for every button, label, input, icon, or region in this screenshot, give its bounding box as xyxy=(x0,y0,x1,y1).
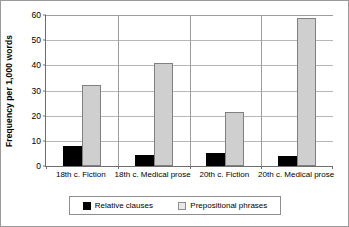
x-tick-mark xyxy=(261,166,262,169)
x-tick-mark xyxy=(190,166,191,169)
x-tick-label: 18th c. Fiction xyxy=(56,170,106,179)
legend-item-prepositional-phrases: Prepositional phrases xyxy=(178,201,267,210)
y-tick-mark xyxy=(43,65,46,66)
y-tick-mark xyxy=(43,115,46,116)
x-tick-label: 20th c. Fiction xyxy=(199,170,249,179)
plot-area xyxy=(45,15,333,167)
x-tick-mark xyxy=(118,166,119,169)
y-tick-label: 60 xyxy=(23,10,41,20)
y-tick-label: 40 xyxy=(23,60,41,70)
y-tick-label: 10 xyxy=(23,136,41,146)
x-tick-mark xyxy=(332,166,333,169)
x-tick-label: 20th c. Medical prose xyxy=(258,170,334,179)
bar xyxy=(206,153,225,166)
y-tick-mark xyxy=(43,140,46,141)
bar-chart-figure: Frequency per 1,000 words 0102030405060 … xyxy=(0,0,349,227)
bar xyxy=(154,63,173,166)
x-tick-mark xyxy=(46,166,47,169)
legend-swatch-icon-prepositional-phrases xyxy=(178,202,186,210)
bar xyxy=(82,85,101,166)
legend-label-relative-clauses: Relative clauses xyxy=(95,201,153,210)
bar xyxy=(225,112,244,166)
bar xyxy=(297,18,316,166)
category-separator xyxy=(261,15,262,166)
y-tick-label: 30 xyxy=(23,86,41,96)
y-tick-label: 20 xyxy=(23,111,41,121)
category-separator xyxy=(118,15,119,166)
x-tick-label: 18th c. Medical prose xyxy=(115,170,191,179)
bar xyxy=(63,146,82,166)
chart-legend: Relative clauses Prepositional phrases xyxy=(69,196,281,215)
y-tick-label: 50 xyxy=(23,35,41,45)
bar xyxy=(135,155,154,166)
y-axis-title: Frequency per 1,000 words xyxy=(4,35,14,147)
x-axis-tick-labels: 18th c. Fiction18th c. Medical prose20th… xyxy=(45,170,333,184)
y-tick-mark xyxy=(43,40,46,41)
y-tick-label: 0 xyxy=(23,161,41,171)
y-tick-mark xyxy=(43,15,46,16)
legend-swatch-icon-relative-clauses xyxy=(83,202,91,210)
y-axis-title-container: Frequency per 1,000 words xyxy=(1,1,17,181)
y-tick-mark xyxy=(43,90,46,91)
bar xyxy=(278,156,297,166)
y-axis-tick-labels: 0102030405060 xyxy=(21,1,41,227)
legend-item-relative-clauses: Relative clauses xyxy=(83,201,153,210)
legend-label-prepositional-phrases: Prepositional phrases xyxy=(190,201,267,210)
category-separator xyxy=(190,15,191,166)
